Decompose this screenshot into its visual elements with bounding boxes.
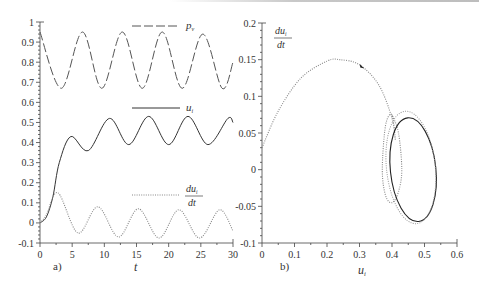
x-tick-label: 0: [38, 249, 43, 260]
x-tick-label: 0.6: [451, 249, 464, 260]
y-tick-label: 0.2: [244, 18, 257, 29]
x-tick-label: 0: [260, 249, 265, 260]
y-tick-label: 0.6: [22, 97, 35, 108]
x-tick-label: 25: [196, 249, 206, 260]
series-du-i-dt: [40, 192, 233, 238]
y-tick-label: 0.7: [22, 77, 35, 88]
panel-a-chart: -0.100.10.20.30.40.50.60.70.80.910510152…: [18, 17, 238, 275]
y-tick-label: 0.2: [22, 177, 35, 188]
x-axis-title: ui: [358, 263, 366, 277]
x-tick-label: 20: [164, 249, 174, 260]
y-tick-label: 0.9: [22, 37, 35, 48]
svg-text:dui: dui: [186, 183, 198, 195]
panel-b-chart: -0.1-0.0500.050.10.150.200.10.20.30.40.5…: [235, 18, 463, 278]
panel-label-b: b): [280, 260, 290, 273]
y-axis-title: duidt: [274, 25, 292, 50]
y-tick-label: 0.1: [22, 197, 35, 208]
x-tick-label: 10: [99, 249, 109, 260]
y-tick-label: 0.3: [22, 157, 35, 168]
y-tick-label: 0.1: [244, 91, 257, 102]
series-u-i: [40, 116, 233, 222]
legend-label-du: duidt: [185, 183, 203, 208]
x-axis-title: t: [134, 260, 138, 274]
svg-text:dui: dui: [275, 25, 287, 37]
x-tick-label: 5: [70, 249, 75, 260]
x-tick-label: 0.1: [288, 249, 301, 260]
series-p-v: [40, 32, 233, 89]
legend-label-p: pv: [185, 19, 195, 32]
series-transient-trajectory: [262, 59, 402, 203]
y-tick-label: 0.5: [22, 117, 35, 128]
x-tick-label: 0.4: [386, 249, 399, 260]
x-tick-label: 0.3: [353, 249, 366, 260]
figure: -0.100.10.20.30.40.50.60.70.80.910510152…: [0, 0, 479, 291]
y-tick-label: 0.15: [239, 54, 257, 65]
y-tick-label: 0: [251, 164, 256, 175]
y-tick-label: -0.1: [240, 238, 256, 249]
y-tick-label: -0.05: [235, 201, 256, 212]
x-tick-label: 0.5: [418, 249, 431, 260]
y-tick-label: 0.05: [239, 128, 257, 139]
x-tick-label: 15: [132, 249, 142, 260]
svg-text:dt: dt: [277, 39, 285, 50]
series-limit-cycle: [385, 116, 441, 224]
x-tick-label: 30: [228, 249, 238, 260]
panel-label-a: a): [53, 260, 62, 273]
legend-label-u: ui: [186, 101, 194, 114]
y-tick-label: 1: [29, 17, 34, 28]
y-tick-label: -0.1: [18, 238, 34, 249]
svg-text:dt: dt: [188, 197, 196, 208]
y-tick-label: 0.4: [22, 137, 35, 148]
y-tick-label: 0.8: [22, 57, 35, 68]
y-tick-label: 0: [29, 217, 34, 228]
x-tick-label: 0.2: [321, 249, 334, 260]
